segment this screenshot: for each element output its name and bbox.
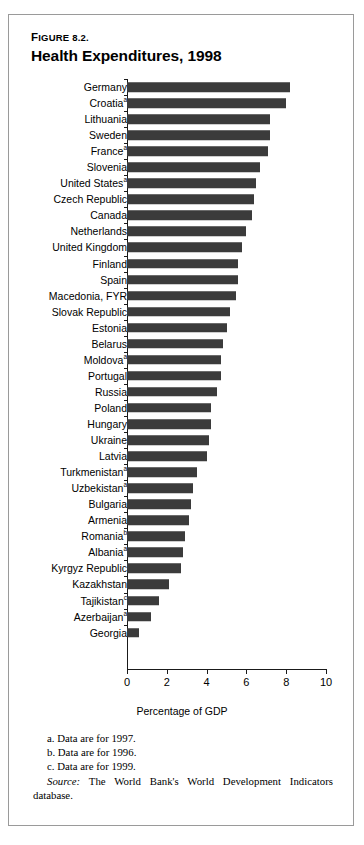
bar-category-label: Lithuania (84, 114, 127, 125)
bar (127, 628, 139, 638)
bar-row: Azerbaijana (9, 609, 355, 625)
bar (127, 130, 270, 140)
bar (127, 387, 217, 397)
bar-row: Hungary (9, 416, 355, 432)
bar-row: Slovak Republic (9, 304, 355, 320)
bar-category-label: Ukraine (91, 435, 127, 446)
bar-category-label: Slovenia (87, 162, 127, 173)
bar-track (127, 432, 335, 448)
bar (127, 564, 181, 574)
bar (127, 467, 197, 477)
bar-track (127, 609, 335, 625)
bar-track (127, 239, 335, 255)
bar-category-label: Germany (84, 82, 127, 93)
bar-track (127, 256, 335, 272)
bar-category-label: Latvia (99, 451, 127, 462)
bar-category-label: United Kingdom (52, 242, 127, 253)
bar-category-label: Netherlands (70, 226, 127, 237)
bar-track (127, 512, 335, 528)
bar-category-label: Kazakhstan (72, 579, 127, 590)
bar-track (127, 127, 335, 143)
bar-track (127, 560, 335, 576)
bar (127, 403, 211, 413)
bar-row: Armenia (9, 512, 355, 528)
bar-category-label: Moldovaa (84, 354, 127, 365)
bar-row: Bulgaria (9, 496, 355, 512)
bar-track (127, 207, 335, 223)
bar (127, 291, 236, 301)
bar-category-label: Belarus (91, 338, 127, 349)
source-label: Source: (47, 775, 80, 787)
bar-category-label: Sweden (89, 130, 127, 141)
bar (127, 355, 221, 365)
bar-row: Croatiaa (9, 95, 355, 111)
bar-track (127, 528, 335, 544)
bar-category-label: Francea (91, 146, 127, 157)
figure-number: FIGURE 8.2. (31, 31, 89, 43)
bar (127, 211, 252, 221)
bar-track (127, 288, 335, 304)
note-a: a. Data are for 1997. (33, 731, 333, 745)
x-axis-tick-label: 4 (204, 676, 210, 688)
bar-row: United Kingdom (9, 239, 355, 255)
bar-row: Czech Republic (9, 191, 355, 207)
bar-category-label: Turkmenistana (60, 467, 127, 478)
bar-row: Sweden (9, 127, 355, 143)
bar-category-label: Slovak Republic (52, 306, 127, 317)
bar-row: Poland (9, 400, 355, 416)
bar-category-label: Romaniab (81, 531, 127, 542)
bar-row: Francea (9, 143, 355, 159)
bar-track (127, 111, 335, 127)
bar-row: Portugal (9, 368, 355, 384)
bar-category-label: Estonia (92, 322, 127, 333)
bar-track (127, 544, 335, 560)
bar (127, 580, 169, 590)
bar-row: Tajikistanc (9, 593, 355, 609)
bar-category-label: Russia (95, 386, 127, 397)
bar-row: Turkmenistana (9, 464, 355, 480)
note-c: c. Data are for 1999. (33, 759, 333, 773)
bar (127, 516, 189, 526)
bar-row: Ukraine (9, 432, 355, 448)
figure-notes: a. Data are for 1997. b. Data are for 19… (33, 731, 333, 802)
x-axis-tick (326, 669, 327, 674)
bar-track (127, 593, 335, 609)
bar-track (127, 384, 335, 400)
bar-track (127, 95, 335, 111)
bar-track (127, 191, 335, 207)
bar-row: Finland (9, 256, 355, 272)
bar-category-label: Portugal (88, 370, 127, 381)
bar-row: Spain (9, 272, 355, 288)
x-axis-line: 0246810 (127, 669, 326, 670)
bar-track (127, 175, 335, 191)
bar-category-label: United Statesa (60, 178, 127, 189)
bar (127, 179, 256, 189)
bar-category-label: Georgia (90, 627, 127, 638)
bar-row: Canada (9, 207, 355, 223)
bar-track (127, 352, 335, 368)
bar (127, 451, 207, 461)
bar-row: Estonia (9, 320, 355, 336)
source-note: Source: The World Bank's World Developme… (33, 774, 333, 802)
note-b: b. Data are for 1996. (33, 745, 333, 759)
bar (127, 499, 191, 509)
bar-category-label: Spain (100, 274, 127, 285)
bar-row: Latvia (9, 448, 355, 464)
bar-track (127, 143, 335, 159)
figure-title: Health Expenditures, 1998 (31, 47, 221, 65)
bar-track (127, 336, 335, 352)
bar (127, 435, 209, 445)
bar-category-label: Canada (90, 210, 127, 221)
bar (127, 419, 211, 429)
bar-row: Lithuania (9, 111, 355, 127)
bar-row: Romaniab (9, 528, 355, 544)
bar (127, 82, 290, 92)
bar-category-label: Bulgaria (88, 499, 127, 510)
bar (127, 114, 270, 124)
bar-row: Macedonia, FYR (9, 288, 355, 304)
bar-row: Netherlands (9, 223, 355, 239)
bar (127, 259, 238, 269)
bar-track (127, 448, 335, 464)
bar-category-label: Kyrgyz Republic (51, 563, 127, 574)
bar-track (127, 368, 335, 384)
